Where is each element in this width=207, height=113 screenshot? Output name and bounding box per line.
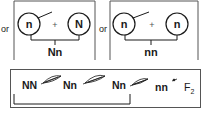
zygote-genotype-2: nn [144,46,158,58]
plus-sign-1: + [52,20,57,30]
plus-sign-2: + [149,20,154,30]
generations-border [11,70,201,108]
generations-panel: NN Nn Nn nn F2 [11,70,201,108]
generation-label-subscript: 2 [190,88,194,95]
genotype-group-bracket [14,94,130,104]
genotype-nn-hetero-2: Nn [112,79,126,91]
zygote-genotype-1: Nn [48,46,63,58]
gamete-allele-left-1: n [26,18,33,30]
panel-1: n + N Nn [14,1,95,60]
small-feather-icon [172,79,177,81]
genotype-nn-dominant: NN [22,79,37,91]
cross-diagram: or n + N Nn or n + n nn NN Nn [0,0,207,113]
feather-icon-1 [41,76,61,84]
or-label-2: or [99,24,107,34]
feather-icon-3 [130,79,148,86]
gamete-allele-left-2: n [121,18,128,30]
feather-icon-2 [83,75,105,84]
sperm-tail-2 [133,12,149,18]
genotype-nn-hetero-1: Nn [63,79,77,91]
gamete-allele-right-1: N [75,18,83,30]
or-label-1: or [1,24,9,34]
join-bracket-2 [125,35,177,40]
generation-label: F2 [184,81,194,95]
genotype-nn-recessive: nn [155,81,168,93]
join-bracket-1 [31,35,79,40]
panel-2: n + n nn [110,1,198,60]
sperm-tail-1 [38,12,52,18]
gamete-allele-right-2: n [174,18,181,30]
